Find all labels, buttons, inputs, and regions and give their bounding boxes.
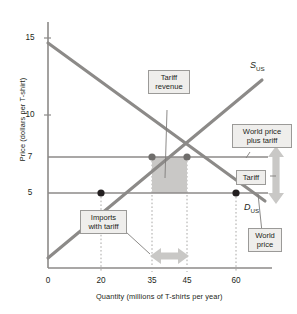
callout-imports-with-tariff-line2: with tariff	[84, 222, 123, 231]
callout-imports-with-tariff: Imports with tariff	[80, 210, 127, 234]
callout-tariff-revenue-line2: revenue	[152, 82, 186, 91]
imports-with-tariff-arrow	[150, 248, 189, 264]
x-tick-label-45: 45	[178, 276, 196, 285]
callout-tariff-revenue-line1: Tariff	[152, 73, 186, 82]
y-tick-label-7: 7	[20, 152, 40, 161]
callout-world-price-line1: World	[252, 231, 278, 240]
callout-world-price-plus-tariff-line2: plus tariff	[236, 136, 288, 145]
marker-demand-q60	[232, 189, 239, 196]
tariff-arrow	[268, 146, 284, 204]
y-tick-label-5: 5	[20, 188, 40, 197]
y-tick-label-10: 10	[20, 110, 40, 119]
tariff-revenue-region	[152, 157, 187, 193]
x-tick-label-0: 0	[39, 276, 57, 285]
supply-curve-label: SUS	[250, 60, 265, 72]
marker-supply-q35	[148, 153, 155, 160]
tariff-supply-demand-chart: Price (dollars per T-shirt) Quantity (mi…	[0, 0, 297, 314]
marker-demand-q45	[183, 153, 190, 160]
chart-canvas	[0, 0, 297, 314]
supply-curve-sub: US	[256, 65, 265, 72]
callout-tariff: Tariff	[236, 170, 266, 185]
leader-imports-with-tariff	[126, 232, 150, 254]
callout-world-price-plus-tariff: World price plus tariff	[232, 124, 292, 148]
demand-curve-sub: US	[251, 207, 260, 214]
x-axis-title: Quantity (millions of T-shirts per year)	[96, 292, 223, 301]
callout-world-price-line2: price	[252, 240, 278, 249]
y-tick-label-15: 15	[20, 33, 40, 42]
x-tick-label-60: 60	[227, 276, 245, 285]
x-tick-label-35: 35	[143, 276, 161, 285]
callout-world-price-plus-tariff-line1: World price	[236, 127, 288, 136]
callout-world-price: World price	[248, 228, 282, 252]
callout-tariff-revenue: Tariff revenue	[148, 70, 190, 94]
marker-supply-q20	[97, 189, 104, 196]
x-tick-label-20: 20	[92, 276, 110, 285]
demand-curve-label: DUS	[244, 202, 259, 214]
callout-tariff-line1: Tariff	[240, 173, 262, 182]
callout-imports-with-tariff-line1: Imports	[84, 213, 123, 222]
